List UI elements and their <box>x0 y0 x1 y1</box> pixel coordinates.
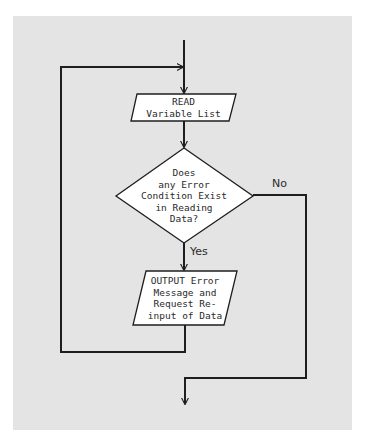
decision-node-line-3: Condition Exist <box>126 190 242 202</box>
decision-node-line-5: Data? <box>126 213 242 225</box>
read-node-label: READ Variable List <box>131 96 236 119</box>
read-node-line-1: READ <box>131 96 236 108</box>
decision-node-line-1: Does <box>126 167 242 179</box>
output-node-line-4: input of Data <box>133 310 237 322</box>
decision-node-line-4: in Reading <box>126 202 242 214</box>
output-node-line-1: OUTPUT Error <box>133 275 237 287</box>
decision-node-label: Does any Error Condition Exist in Readin… <box>126 167 242 225</box>
output-node-line-3: Request Re- <box>133 298 237 310</box>
yes-edge-label: Yes <box>190 245 208 258</box>
no-edge-label: No <box>272 177 287 190</box>
read-node-line-2: Variable List <box>131 108 236 120</box>
output-node-label: OUTPUT Error Message and Request Re- inp… <box>133 275 237 321</box>
output-node-line-2: Message and <box>133 287 237 299</box>
decision-node-line-2: any Error <box>126 179 242 191</box>
